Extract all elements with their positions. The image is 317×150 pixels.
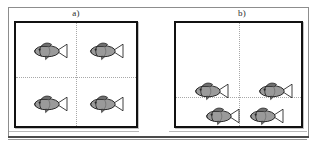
panel-label-b: b)	[212, 8, 272, 19]
tank-a-shadow-edge	[9, 131, 139, 132]
fish-icon	[203, 106, 241, 126]
panel-label-a: a)	[46, 8, 106, 19]
fish-icon	[31, 41, 69, 61]
fish-icon	[87, 94, 125, 114]
tank-panel-b	[174, 21, 303, 128]
tank-panel-a	[14, 21, 138, 128]
frame-baseline	[8, 136, 309, 138]
figure-canvas: a) b)	[0, 0, 317, 150]
quadrant-divider-horizontal	[16, 77, 136, 78]
fish-icon	[256, 81, 294, 101]
frame-baseline-secondary	[8, 139, 307, 140]
fish-icon	[247, 106, 285, 126]
fish-icon	[87, 41, 125, 61]
quadrant-divider-vertical	[76, 23, 77, 126]
fish-icon	[31, 94, 69, 114]
tank-b-shadow-edge	[169, 131, 307, 132]
fish-icon	[192, 81, 230, 101]
